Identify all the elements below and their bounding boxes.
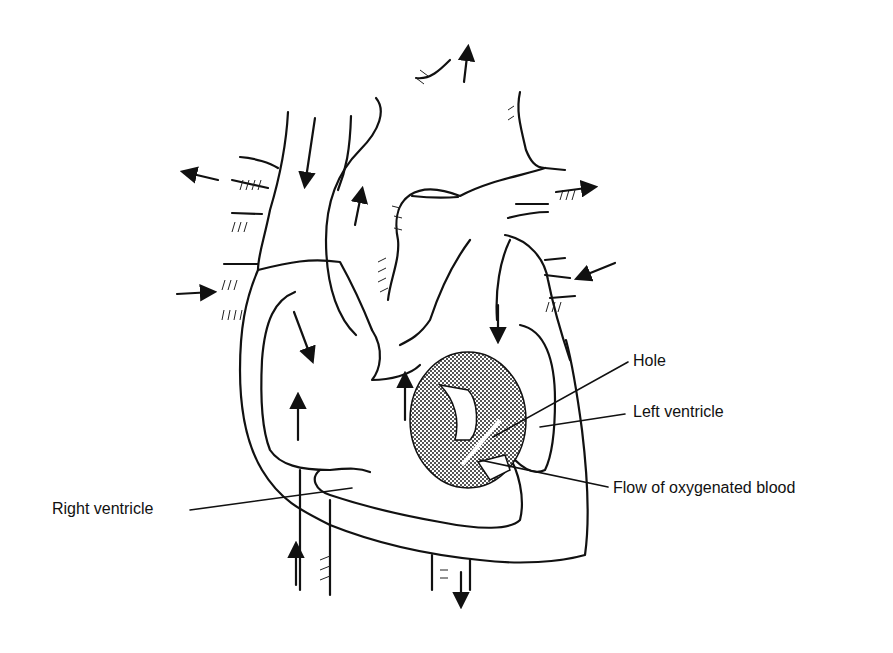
aorta <box>326 60 565 335</box>
arrow-left-icon <box>184 172 218 180</box>
heart-diagram: Hole Left ventricle Flow of oxygenated b… <box>0 0 893 653</box>
arrow-up-icon <box>464 48 468 82</box>
label-flow-oxygenated-blood: Flow of oxygenated blood <box>613 479 795 497</box>
label-right-ventricle: Right ventricle <box>52 500 153 518</box>
label-left-ventricle: Left ventricle <box>633 403 724 421</box>
pulmonary-artery <box>400 235 575 360</box>
arrow-down-icon <box>305 118 315 185</box>
leader-lines <box>190 362 628 510</box>
arrow-right-icon <box>177 292 213 294</box>
superior-vena-cava <box>224 112 351 270</box>
heart-illustration <box>0 0 893 653</box>
arrow-left-icon <box>578 263 615 278</box>
arrow-up-icon <box>355 190 362 225</box>
arrow-down-icon <box>294 312 312 360</box>
label-hole: Hole <box>633 352 666 370</box>
